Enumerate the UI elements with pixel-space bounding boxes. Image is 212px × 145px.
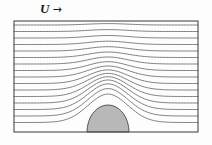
- streamline: [14, 41, 198, 44]
- streamline: [14, 24, 198, 25]
- streamline: [14, 57, 198, 64]
- streamline: [14, 30, 198, 32]
- streamline: [14, 47, 198, 51]
- semi-elliptical-obstacle: [87, 105, 129, 132]
- streamline: [14, 77, 198, 97]
- streamline: [14, 36, 198, 39]
- streamline: [14, 73, 198, 90]
- flow-over-bump-diagram: [0, 0, 212, 145]
- streamline: [14, 66, 198, 77]
